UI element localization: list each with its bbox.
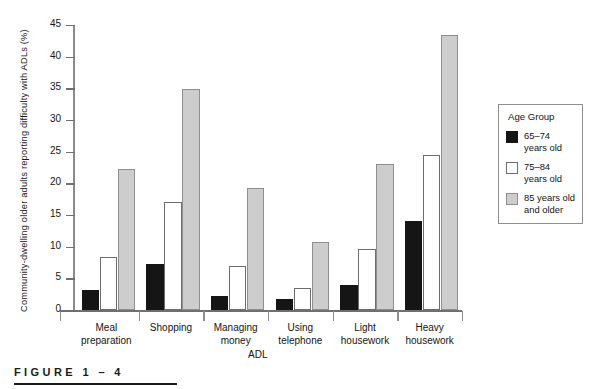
legend-swatch (506, 193, 518, 205)
bar (247, 188, 265, 310)
legend: Age Group 65–74years old75–84years old85… (498, 104, 583, 224)
legend-title: Age Group (508, 111, 576, 122)
legend-label-line: 65–74 (524, 130, 562, 142)
bar-group (139, 25, 204, 310)
y-axis-title-text: Community-dwelling older adults reportin… (19, 29, 29, 312)
legend-label-line: years old (524, 142, 562, 154)
figure-panel: Community-dwelling older adults reportin… (0, 0, 589, 389)
legend-label-line: and older (524, 204, 575, 216)
bar-group (74, 25, 139, 310)
legend-entry: 85 years oldand older (506, 192, 576, 215)
category-label: Heavyhousework (389, 322, 470, 347)
y-tick-label: 20 (37, 176, 61, 187)
category-label-line: preparation (66, 335, 147, 348)
bar (276, 299, 294, 310)
bar (358, 249, 376, 310)
legend-label-line: 85 years old (524, 192, 575, 204)
bar (405, 221, 423, 310)
y-tick-label: 15 (37, 208, 61, 219)
bar-group (268, 25, 333, 310)
y-tick-label: 40 (37, 50, 61, 61)
y-tick: 0 (66, 310, 75, 311)
y-tick-label: 35 (37, 81, 61, 92)
category-label-line: Heavy (389, 322, 470, 335)
y-axis-title: Community-dwelling older adults reportin… (6, 14, 24, 314)
bar (100, 257, 118, 310)
figure-caption-rule (14, 383, 177, 385)
legend-label: 85 years oldand older (524, 192, 575, 215)
bar-group (397, 25, 462, 310)
bar (441, 35, 459, 310)
legend-label: 75–84years old (524, 161, 562, 184)
y-tick-label: 5 (37, 271, 61, 282)
bar (294, 288, 312, 310)
category-label-line: housework (389, 335, 470, 348)
bar (164, 202, 182, 310)
bar (340, 285, 358, 310)
bar (423, 155, 441, 310)
plot-area: 051015202530354045 (74, 25, 462, 310)
bar-group (203, 25, 268, 310)
y-tick-label: 45 (37, 18, 61, 29)
category-separator (139, 311, 140, 321)
legend-entry: 75–84years old (506, 161, 576, 184)
category-separator (462, 311, 463, 321)
legend-swatch (506, 162, 518, 174)
category-separator (333, 311, 334, 321)
legend-label-line: 75–84 (524, 161, 562, 173)
y-tick-label: 10 (37, 240, 61, 251)
legend-entries: 65–74years old75–84years old85 years old… (506, 130, 576, 215)
y-tick-label: 25 (37, 145, 61, 156)
x-axis-title: ADL (248, 349, 267, 360)
y-tick-label: 30 (37, 113, 61, 124)
y-tick-label: 0 (37, 303, 61, 314)
legend-swatch (506, 131, 518, 143)
legend-label: 65–74years old (524, 130, 562, 153)
bar (211, 296, 229, 310)
bar-group (333, 25, 398, 310)
bar (82, 290, 100, 310)
legend-entry: 65–74years old (506, 130, 576, 153)
category-separator (268, 311, 269, 321)
category-separator (203, 311, 204, 321)
category-separator (60, 311, 61, 321)
bar (182, 89, 200, 310)
bar (312, 242, 330, 310)
figure-caption: FIGURE 1 – 4 (14, 366, 124, 378)
category-separator (397, 311, 398, 321)
x-axis-line (60, 310, 462, 312)
bar (118, 169, 136, 310)
bar (229, 266, 247, 310)
bar (376, 164, 394, 310)
bar (146, 264, 164, 310)
legend-label-line: years old (524, 173, 562, 185)
